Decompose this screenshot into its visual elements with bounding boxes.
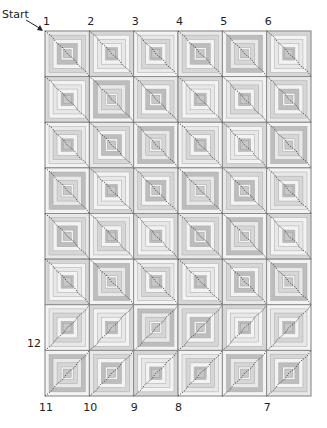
quilt-block (134, 350, 178, 396)
quilt-block (178, 122, 222, 168)
quilt-block (178, 259, 222, 305)
quilt-block (134, 31, 178, 77)
quilt-block (222, 31, 266, 77)
bottom-label: 9 (131, 402, 138, 413)
quilt-block (178, 305, 222, 351)
quilt-block (45, 214, 89, 260)
quilt-block (222, 214, 266, 260)
quilt-block (89, 77, 133, 123)
quilt-block (89, 168, 133, 214)
quilt-block (178, 77, 222, 123)
quilt-diagram: Start 123456111098712 (0, 0, 327, 428)
side-label: 12 (27, 338, 41, 349)
quilt-block (267, 350, 311, 396)
quilt-block (45, 122, 89, 168)
quilt-grid (0, 0, 327, 428)
quilt-block (222, 168, 266, 214)
quilt-block (134, 77, 178, 123)
quilt-block (45, 31, 89, 77)
quilt-block (45, 259, 89, 305)
quilt-block (178, 350, 222, 396)
quilt-block (45, 305, 89, 351)
quilt-block (134, 122, 178, 168)
quilt-block (222, 305, 266, 351)
top-label: 2 (87, 16, 94, 27)
bottom-label: 8 (175, 402, 182, 413)
quilt-block (134, 305, 178, 351)
quilt-block (267, 31, 311, 77)
top-label: 3 (132, 16, 139, 27)
quilt-block (89, 305, 133, 351)
quilt-block (134, 168, 178, 214)
quilt-block (267, 77, 311, 123)
top-label: 6 (265, 16, 272, 27)
quilt-block (89, 214, 133, 260)
quilt-block (267, 168, 311, 214)
quilt-block (267, 305, 311, 351)
bottom-label: 11 (39, 402, 53, 413)
quilt-block (45, 168, 89, 214)
quilt-block (178, 31, 222, 77)
quilt-block (267, 214, 311, 260)
bottom-label: 7 (264, 402, 271, 413)
quilt-block (134, 259, 178, 305)
quilt-block (178, 214, 222, 260)
quilt-block (89, 259, 133, 305)
quilt-block (178, 168, 222, 214)
quilt-block (267, 259, 311, 305)
quilt-block (45, 350, 89, 396)
quilt-block (222, 350, 266, 396)
bottom-label: 10 (83, 402, 97, 413)
quilt-block (222, 77, 266, 123)
quilt-block (222, 259, 266, 305)
quilt-block (45, 77, 89, 123)
top-label: 4 (176, 16, 183, 27)
top-label: 5 (220, 16, 227, 27)
quilt-block (134, 214, 178, 260)
quilt-block (89, 122, 133, 168)
quilt-block (267, 122, 311, 168)
quilt-block (89, 350, 133, 396)
top-label: 1 (43, 16, 50, 27)
quilt-block (222, 122, 266, 168)
quilt-block (89, 31, 133, 77)
